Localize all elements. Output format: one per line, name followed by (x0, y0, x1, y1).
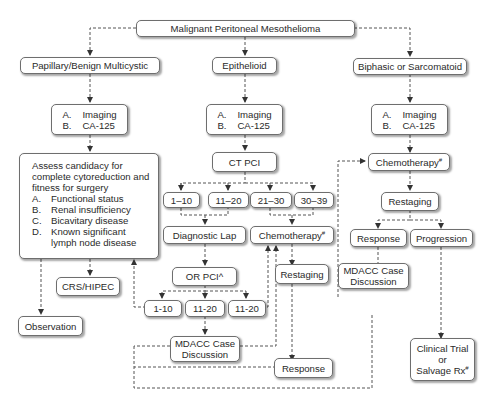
connector-orpci-split (162, 285, 205, 298)
biphasic-progression-node: Progression (410, 229, 473, 247)
biphasic-label: Biphasic or Sarcomatoid (358, 61, 462, 72)
epithelioid-response-node: Response (274, 358, 333, 378)
chemo-label: Chemotherapy (259, 230, 322, 241)
biphasic-node: Biphasic or Sarcomatoid (353, 58, 467, 75)
workup-item: Imaging (82, 109, 116, 120)
epithelioid-node: Epithelioid (212, 57, 277, 74)
restaging-label: Restaging (280, 269, 323, 280)
epithelioid-mdacc-node: MDACC Case Discussion (170, 336, 240, 362)
connector-high-to-chemo (270, 208, 313, 215)
workup-key: B. (382, 120, 402, 131)
crs-hipec-label: CRS/HIPEC (62, 281, 114, 292)
clinical-trial-node: Clinical Trial or Salvage Rx# (410, 338, 475, 381)
biphasic-response-node: Response (350, 229, 407, 247)
salvage-label: Salvage Rx (416, 365, 465, 376)
pci-range-label: 30–39 (301, 195, 328, 206)
progression-label: Progression (416, 233, 467, 244)
pci-range-node: 11–20 (208, 192, 249, 208)
observation-node: Observation (18, 316, 83, 336)
connector-high-orpci-to-chemo (262, 246, 268, 307)
connector-ctpci-split (181, 172, 245, 190)
workup-key: A. (217, 109, 237, 120)
assess-node: Assess candidacy for complete cytoreduct… (19, 153, 159, 259)
root-node: Malignant Peritoneal Mesothelioma (136, 20, 355, 37)
connector-low-to-lap (181, 208, 228, 215)
assess-key: B. (32, 204, 51, 215)
epithelioid-chemo-node: Chemotherapy# (250, 226, 334, 244)
pci-range-label: 21–30 (258, 195, 285, 206)
chemo-footnote-mark: # (322, 230, 325, 236)
or-pci-range-label: 1-10 (153, 303, 172, 314)
workup-key: A. (62, 109, 82, 120)
salvage-footnote-mark: # (465, 365, 468, 371)
or-pci-range-label: 11-20 (193, 303, 217, 314)
chemo-label: Chemotherapy (376, 157, 439, 168)
epithelioid-restaging-node: Restaging (275, 264, 329, 284)
workup-key: A. (382, 109, 402, 120)
or-pci-node: OR PCI^ (172, 267, 237, 286)
pci-range-label: 11–20 (216, 195, 242, 206)
workup-key: B. (217, 120, 237, 131)
assess-item: Functional status (51, 193, 124, 204)
clinical-trial-label: Clinical Trial (417, 343, 469, 354)
workup-key: B. (62, 120, 82, 131)
assess-key: A. (32, 193, 51, 204)
or-pci-label: OR PCI^ (186, 271, 224, 282)
epithelioid-workup-node: A.Imaging B.CA-125 (206, 104, 283, 135)
response-label: Response (282, 363, 325, 374)
mdacc-label: MDACC Case Discussion (174, 338, 236, 360)
ct-pci-label: CT PCI (229, 157, 260, 168)
pci-range-node: 21–30 (250, 192, 292, 208)
connector-restaging-split (378, 210, 410, 228)
workup-item: CA-125 (237, 120, 270, 131)
diagnostic-lap-node: Diagnostic Lap (163, 226, 246, 244)
biphasic-workup-node: A.Imaging B.CA-125 (371, 104, 448, 135)
workup-item: Imaging (237, 109, 271, 120)
or-pci-range-node: 11-20 (185, 300, 225, 317)
assess-intro: Assess candidacy for complete cytoreduct… (27, 160, 152, 193)
connector-mdacc-to-chemo (240, 246, 276, 346)
diagnostic-lap-label: Diagnostic Lap (173, 230, 236, 241)
assess-key: C. (32, 215, 51, 226)
pci-range-node: 30–39 (294, 192, 334, 208)
connector-root-papillary (90, 28, 136, 55)
or-label: or (438, 354, 447, 365)
connector-orpci-right (205, 291, 246, 298)
pci-range-label: 1–10 (171, 195, 192, 206)
restaging-label: Restaging (388, 196, 431, 207)
response-label: Response (357, 233, 400, 244)
workup-item: Imaging (402, 109, 436, 120)
workup-item: CA-125 (82, 120, 115, 131)
workup-item: CA-125 (402, 120, 435, 131)
or-pci-range-node: 1-10 (144, 300, 182, 317)
assess-item: Bicavitary disease (51, 215, 128, 226)
ct-pci-node: CT PCI (212, 152, 277, 172)
papillary-workup-node: A.Imaging B.CA-125 (51, 104, 128, 135)
biphasic-mdacc-node: MDACC Case Discussion (338, 263, 409, 289)
root-label: Malignant Peritoneal Mesothelioma (171, 23, 321, 34)
chemo-footnote-mark: # (439, 157, 442, 163)
or-pci-range-label: 11-20 (235, 303, 259, 314)
mdacc-label: MDACC Case Discussion (343, 265, 405, 287)
biphasic-restaging-node: Restaging (381, 192, 439, 211)
papillary-label: Papillary/Benign Multicystic (32, 60, 148, 71)
biphasic-chemo-node: Chemotherapy# (368, 153, 450, 171)
pci-range-node: 1–10 (163, 192, 200, 208)
connector-root-biphasic (354, 28, 410, 56)
assess-item: Renal insufficiency (51, 204, 131, 215)
assess-key: D. (32, 226, 51, 248)
papillary-node: Papillary/Benign Multicystic (20, 57, 160, 74)
crs-hipec-node: CRS/HIPEC (56, 277, 120, 296)
connector-ctpci-3039 (245, 183, 313, 190)
assess-item: Known significant lymph node disease (51, 226, 151, 248)
epithelioid-label: Epithelioid (222, 60, 266, 71)
or-pci-range-node: 11-20 (228, 300, 266, 317)
observation-label: Observation (25, 321, 77, 332)
connector-restaging-progression (410, 220, 441, 228)
connector-low-orpci-to-crs (134, 260, 146, 307)
